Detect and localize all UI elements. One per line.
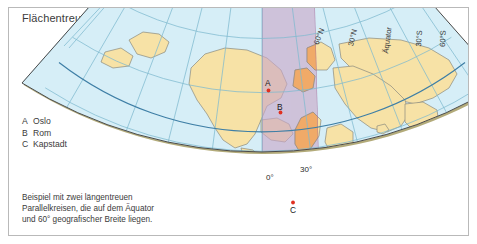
caption-line-2: Parallelkreisen, die auf dem Äquator [22, 203, 207, 214]
figure-caption: Beispiel mit zwei längentreuen Parallelk… [22, 192, 207, 226]
marker-dot-oslo[interactable] [267, 89, 271, 93]
legend-key-b: B [22, 128, 33, 140]
land-new-guinea [453, 156, 465, 170]
meridian-label-0: 0° [266, 173, 274, 182]
figure-equal-area-conic-projection: Flächentreue Kegelabbildung [0, 0, 477, 244]
land-madagascar [359, 172, 375, 194]
marker-label-b: B [277, 102, 283, 112]
edge-label-30s: 30°S [414, 30, 424, 47]
meridian-label-30e: 30° [300, 165, 312, 174]
legend-label-b: Rom [33, 128, 51, 138]
land-new-zealand [455, 190, 468, 206]
legend-label-a: Oslo [33, 116, 51, 126]
legend: AOslo BRom CKapstadt [22, 116, 67, 151]
land-indonesia [413, 138, 427, 148]
legend-item-b: BRom [22, 128, 67, 140]
caption-line-1: Beispiel mit zwei längentreuen [22, 192, 207, 203]
marker-label-c: C [290, 205, 296, 215]
legend-item-a: AOslo [22, 116, 67, 128]
legend-key-a: A [22, 116, 33, 128]
marker-label-a: A [265, 78, 271, 88]
marker-dot-kapstadt[interactable] [291, 201, 295, 205]
land-arabia-east-africa [325, 124, 353, 156]
land-australia [395, 152, 449, 198]
legend-key-c: C [22, 139, 33, 151]
caption-line-3: und 60° geografischer Breite liegen. [22, 214, 207, 225]
legend-item-c: CKapstadt [22, 139, 67, 151]
edge-label-60s: 60°S [438, 30, 448, 47]
meridian-labels: 0° 30° [266, 165, 312, 182]
land-southeast-africa [319, 156, 349, 204]
legend-label-c: Kapstadt [33, 139, 67, 149]
